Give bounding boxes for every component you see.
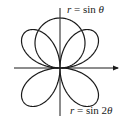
- label-rest: = sin 2: [74, 104, 107, 116]
- label-r-sin-2theta: r = sin 2θ: [70, 105, 112, 116]
- label-theta: θ: [107, 104, 112, 116]
- label-theta: θ: [99, 3, 104, 15]
- label-rest: = sin: [71, 3, 98, 15]
- label-r-sin-theta: r = sin θ: [67, 4, 104, 15]
